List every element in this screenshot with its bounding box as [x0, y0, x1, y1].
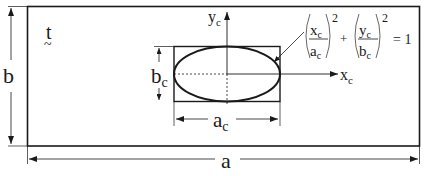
plate-diagram: b a t ~ xc yc bc ac xc ac 2 +: [0, 0, 430, 176]
label-b: b: [3, 63, 14, 88]
svg-text:+: +: [340, 31, 347, 46]
svg-text:bc: bc: [359, 43, 372, 61]
label-t-tilde: ~: [44, 37, 52, 52]
label-a: a: [221, 148, 231, 173]
svg-text:2: 2: [332, 11, 338, 25]
svg-text:ac: ac: [310, 43, 322, 61]
svg-text:= 1: = 1: [393, 32, 411, 47]
label-y-axis: yc: [208, 8, 221, 28]
svg-text:2: 2: [382, 11, 388, 25]
label-x-axis: xc: [340, 66, 353, 86]
svg-text:yc: yc: [359, 22, 372, 40]
ellipse-equation: xc ac 2 + yc bc 2 = 1: [306, 11, 411, 61]
svg-text:xc: xc: [310, 22, 323, 40]
label-bc: bc: [151, 64, 168, 90]
label-ac: ac: [213, 108, 229, 134]
